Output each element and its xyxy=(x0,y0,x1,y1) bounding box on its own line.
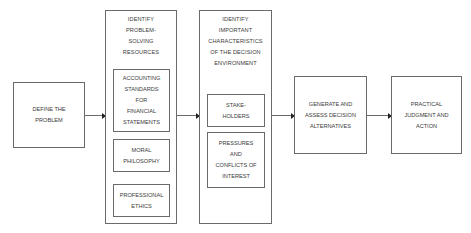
text-line: DEFINE THE xyxy=(32,104,65,115)
arrow-alternatives-to-action xyxy=(367,115,391,116)
accounting-standards-label: ACCOUNTING STANDARDS FOR FINANCIAL STATE… xyxy=(121,73,163,128)
text-line: ENVIRONMENT xyxy=(200,58,271,69)
text-line: CONFLICTS OF xyxy=(215,160,256,171)
text-line: PROFESSIONAL xyxy=(120,190,164,201)
arrow-environment-to-alternatives xyxy=(272,115,294,116)
text-line: SOLVING xyxy=(106,36,176,47)
environment-title: IDENTIFY IMPORTANT CHARACTERISTICS OF TH… xyxy=(200,14,271,69)
text-line: IDENTIFY xyxy=(106,14,176,25)
text-line: ACTION xyxy=(404,121,448,132)
professional-ethics-label: PROFESSIONAL ETHICS xyxy=(118,190,166,212)
text-line: GENERATE AND xyxy=(305,99,356,110)
text-line: STATEMENTS xyxy=(123,117,161,128)
professional-ethics-box: PROFESSIONAL ETHICS xyxy=(113,184,170,217)
stakeholders-box: STAKE- HOLDERS xyxy=(207,94,265,127)
text-line: PROBLEM- xyxy=(106,25,176,36)
text-line: PROBLEM xyxy=(32,115,65,126)
text-line: ETHICS xyxy=(120,201,164,212)
text-line: PRESSURES xyxy=(215,138,256,149)
resources-title: IDENTIFY PROBLEM- SOLVING RESOURCES xyxy=(106,14,176,58)
text-line: PHILOSOPHY xyxy=(123,156,159,167)
text-line: STANDARDS xyxy=(123,84,161,95)
arrow-define-to-resources xyxy=(85,115,105,116)
text-line: ASSESS DECISION xyxy=(305,110,356,121)
text-line: IMPORTANT xyxy=(200,25,271,36)
text-line: AND xyxy=(215,149,256,160)
alternatives-box: GENERATE AND ASSESS DECISION ALTERNATIVE… xyxy=(294,76,367,154)
text-line: MORAL xyxy=(123,145,159,156)
moral-philosophy-box: MORAL PHILOSOPHY xyxy=(113,139,170,172)
text-line: ALTERNATIVES xyxy=(305,121,356,132)
pressures-conflicts-box: PRESSURES AND CONFLICTS OF INTEREST xyxy=(207,132,265,188)
action-box: PRACTICAL JUDGMENT AND ACTION xyxy=(391,76,462,154)
define-problem-label: DEFINE THE PROBLEM xyxy=(30,104,67,126)
text-line: RESOURCES xyxy=(106,47,176,58)
pressures-conflicts-label: PRESSURES AND CONFLICTS OF INTEREST xyxy=(213,138,258,182)
text-line: CHARACTERISTICS xyxy=(200,36,271,47)
define-problem-box: DEFINE THE PROBLEM xyxy=(13,82,85,148)
action-label: PRACTICAL JUDGMENT AND ACTION xyxy=(402,99,450,132)
text-line: INTEREST xyxy=(215,171,256,182)
accounting-standards-box: ACCOUNTING STANDARDS FOR FINANCIAL STATE… xyxy=(113,69,170,132)
text-line: PRACTICAL xyxy=(404,99,448,110)
moral-philosophy-label: MORAL PHILOSOPHY xyxy=(121,145,161,167)
stakeholders-label: STAKE- HOLDERS xyxy=(220,100,251,122)
arrow-resources-to-environment xyxy=(177,115,199,116)
alternatives-label: GENERATE AND ASSESS DECISION ALTERNATIVE… xyxy=(303,99,358,132)
text-line: HOLDERS xyxy=(222,111,249,122)
text-line: STAKE- xyxy=(222,100,249,111)
text-line: JUDGMENT AND xyxy=(404,110,448,121)
text-line: ACCOUNTING xyxy=(123,73,161,84)
text-line: FINANCIAL xyxy=(123,106,161,117)
text-line: IDENTIFY xyxy=(200,14,271,25)
text-line: OF THE DECISION xyxy=(200,47,271,58)
text-line: FOR xyxy=(123,95,161,106)
